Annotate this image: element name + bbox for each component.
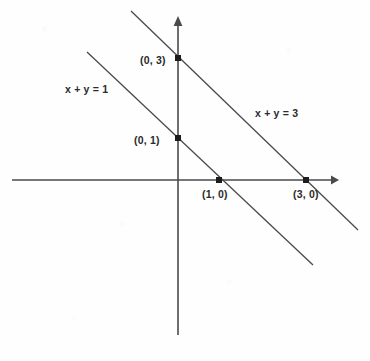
point-marker-0-1 xyxy=(175,135,181,141)
point-marker-0-3 xyxy=(175,55,181,61)
graph-figure: (0, 3) (0, 1) (1, 0) (3, 0) x + y = 1 x … xyxy=(0,0,370,361)
point-label-0-1: (0, 1) xyxy=(134,135,160,146)
point-marker-1-0 xyxy=(216,177,222,183)
line-x-plus-y-equals-1 xyxy=(87,52,313,265)
point-marker-3-0 xyxy=(303,177,309,183)
coordinate-plot xyxy=(0,0,370,361)
line-x-plus-y-equals-3 xyxy=(131,11,358,230)
equation-label-x-plus-y-equals-3: x + y = 3 xyxy=(255,108,298,119)
x-axis-arrow-icon xyxy=(331,176,339,185)
equation-label-x-plus-y-equals-1: x + y = 1 xyxy=(65,84,108,95)
point-label-0-3: (0, 3) xyxy=(140,55,166,66)
y-axis-arrow-icon xyxy=(174,16,183,26)
point-label-1-0: (1, 0) xyxy=(202,189,228,200)
point-label-3-0: (3, 0) xyxy=(293,189,319,200)
